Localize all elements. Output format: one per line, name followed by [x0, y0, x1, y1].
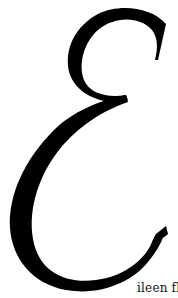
calligraphic-e-glyph: [0, 0, 178, 298]
monogram-logo: ileen fle: [0, 0, 178, 298]
logo-trailing-text: ileen fle: [137, 281, 178, 295]
